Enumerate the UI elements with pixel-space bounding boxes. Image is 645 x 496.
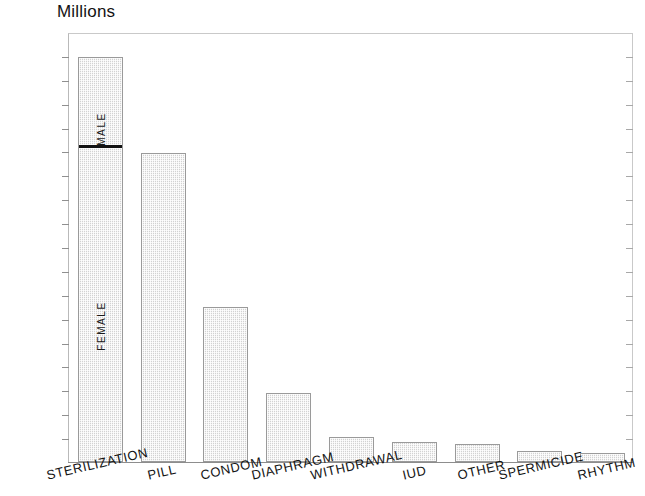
- y-axis-tick-mark: [62, 81, 69, 82]
- y-axis-tick-mark-right: [626, 344, 633, 345]
- y-axis-tick-mark: [62, 367, 69, 368]
- y-axis-tick-mark: [62, 200, 69, 201]
- male-female-divider: [79, 145, 122, 148]
- y-axis-tick-mark-right: [626, 129, 633, 130]
- y-axis-tick-mark-right: [626, 367, 633, 368]
- y-axis-tick-mark: [62, 344, 69, 345]
- bar-chart: Millions MALEFEMALE 00.81.62.43.244.85.6…: [0, 0, 645, 496]
- y-axis-tick-mark: [62, 320, 69, 321]
- y-axis-tick-mark: [62, 129, 69, 130]
- chart-title: Millions: [57, 2, 115, 22]
- y-axis-tick-mark: [62, 57, 69, 58]
- segment-label-female: FEMALE: [95, 301, 106, 351]
- y-axis-tick-mark: [62, 176, 69, 177]
- y-axis-tick-mark-right: [626, 81, 633, 82]
- y-axis-tick-mark-right: [626, 320, 633, 321]
- y-axis-tick-mark-right: [626, 248, 633, 249]
- bar-pill: [141, 153, 186, 462]
- y-axis-tick-mark: [62, 248, 69, 249]
- y-axis-tick-mark-right: [626, 176, 633, 177]
- y-axis-tick-mark-right: [626, 57, 633, 58]
- bar-condom: [203, 307, 248, 462]
- y-axis-tick-mark-right: [626, 105, 633, 106]
- y-axis-tick-mark-right: [626, 152, 633, 153]
- y-axis-tick-mark: [62, 415, 69, 416]
- x-axis-label-pill: PILL: [146, 461, 178, 482]
- bar-sterilization: MALEFEMALE: [78, 57, 123, 462]
- y-axis-tick-mark: [62, 439, 69, 440]
- y-axis-tick-mark-right: [626, 391, 633, 392]
- segment-label-male: MALE: [95, 112, 106, 146]
- y-axis-tick-mark-right: [626, 296, 633, 297]
- y-axis-tick-mark: [62, 391, 69, 392]
- y-axis-tick-mark-right: [626, 224, 633, 225]
- y-axis-tick-mark: [62, 272, 69, 273]
- y-axis-tick-mark-right: [626, 439, 633, 440]
- plot-area: MALEFEMALE: [68, 33, 633, 463]
- y-axis-tick-mark: [62, 152, 69, 153]
- bar-diaphragm: [266, 393, 311, 462]
- y-axis-tick-mark-right: [626, 415, 633, 416]
- y-axis-tick-mark-right: [626, 272, 633, 273]
- y-axis-tick-mark-right: [626, 200, 633, 201]
- y-axis-tick-mark: [62, 224, 69, 225]
- y-axis-tick-mark: [62, 296, 69, 297]
- y-axis-tick-mark: [62, 105, 69, 106]
- x-axis-label-iud: IUD: [401, 463, 428, 483]
